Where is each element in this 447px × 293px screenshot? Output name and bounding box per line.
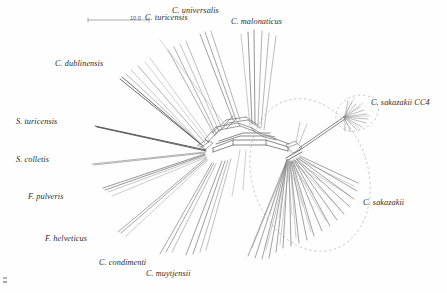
network-edges bbox=[92, 30, 370, 259]
taxon-label-c-malonaticus: C. malonaticus bbox=[231, 17, 282, 26]
taxon-label-c-muytjensii: C. muytjensii bbox=[146, 269, 191, 278]
taxon-label-c-sakazakii: C. sakazakii bbox=[363, 198, 404, 207]
taxon-label-s-turicensis: S. turicensis bbox=[16, 117, 57, 126]
taxon-label-c-condimenti: C. condimenti bbox=[99, 258, 146, 267]
corner-artifact-mark bbox=[3, 277, 7, 285]
taxon-label-c-dublinensis: C. dublinensis bbox=[55, 59, 103, 68]
c-sakazakii-cc4-cluster-ellipse bbox=[330, 88, 384, 137]
figure-canvas: 10.0 C. turicensis C. universalis C. mal… bbox=[0, 0, 447, 293]
taxon-label-c-sakazakii-cc4: C. sakazakii CC4 bbox=[371, 98, 430, 107]
taxon-label-s-colletis: S. colletis bbox=[16, 155, 49, 164]
phylogenetic-network-graphic bbox=[0, 0, 447, 293]
taxon-label-f-helveticus: F. helveticus bbox=[45, 234, 87, 243]
scale-bar-label: 10.0 bbox=[130, 15, 141, 21]
taxon-label-f-pulveris: F. pulveris bbox=[28, 192, 64, 201]
taxon-label-c-universalis: C. universalis bbox=[172, 6, 219, 15]
